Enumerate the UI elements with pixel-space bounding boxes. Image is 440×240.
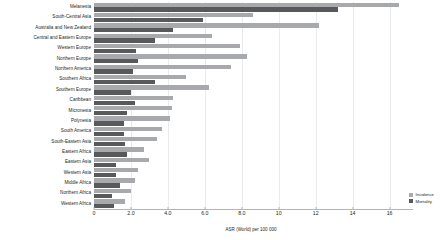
bar-row — [94, 126, 408, 136]
bar-incidence — [94, 13, 253, 17]
legend-item[interactable]: Incidence — [409, 192, 434, 197]
bar-mortality — [94, 80, 155, 84]
bar-incidence — [94, 75, 186, 79]
x-tick-label: 0 — [93, 210, 96, 216]
category-label: Central and Eastern Europe — [0, 33, 91, 43]
legend-swatch — [409, 199, 413, 203]
bar-row — [94, 23, 408, 33]
bar-mortality — [94, 59, 138, 63]
bar-incidence — [94, 158, 149, 162]
category-label: Caribbean — [0, 95, 91, 105]
bar-incidence — [94, 65, 231, 69]
bar-incidence — [94, 106, 172, 110]
category-label: Southern Europe — [0, 85, 91, 95]
x-axis-title: ASR (World) per 100 000 — [94, 227, 408, 232]
legend-swatch — [409, 193, 413, 197]
category-label: Northern Europe — [0, 54, 91, 64]
bar-row — [94, 157, 408, 167]
bar-incidence — [94, 44, 240, 48]
category-label: Australia and New Zealand — [0, 23, 91, 33]
bar-mortality — [94, 101, 135, 105]
x-tick-label: 12 — [313, 210, 319, 216]
bar-mortality — [94, 49, 136, 53]
bar-mortality — [94, 142, 125, 146]
chart-legend: IncidenceMortality — [409, 192, 434, 204]
bar-row — [94, 188, 408, 198]
x-tick-label: 2.0 — [127, 210, 134, 216]
category-label: Western Asia — [0, 168, 91, 178]
category-label: Eastern Asia — [0, 157, 91, 167]
bar-mortality — [94, 132, 124, 136]
bar-mortality — [94, 163, 116, 167]
bar-incidence — [94, 199, 125, 203]
bar-mortality — [94, 111, 127, 115]
category-label: Micronesia — [0, 106, 91, 116]
category-label: Western Europe — [0, 43, 91, 53]
bar-row — [94, 2, 408, 12]
bar-mortality — [94, 18, 203, 22]
x-tick-label: 14 — [350, 210, 356, 216]
bar-incidence — [94, 147, 144, 151]
legend-item[interactable]: Mortality — [409, 199, 434, 204]
bar-row — [94, 199, 408, 209]
bar-chart: MelanesiaSouth-Central AsiaAustralia and… — [0, 0, 440, 240]
plot-area — [94, 2, 408, 209]
bar-mortality — [94, 204, 114, 208]
bar-row — [94, 106, 408, 116]
bar-incidence — [94, 96, 173, 100]
bar-rows — [94, 2, 408, 209]
category-label: Western Africa — [0, 199, 91, 209]
bar-row — [94, 54, 408, 64]
bar-incidence — [94, 23, 319, 27]
bar-incidence — [94, 116, 170, 120]
bar-incidence — [94, 85, 209, 89]
bar-row — [94, 168, 408, 178]
x-tick-label: 6.0 — [201, 210, 208, 216]
bar-row — [94, 137, 408, 147]
x-axis-ticks: 02.04.06.08.010121416 — [94, 210, 408, 222]
bar-incidence — [94, 34, 212, 38]
bar-incidence — [94, 54, 247, 58]
bar-row — [94, 12, 408, 22]
bar-row — [94, 74, 408, 84]
bar-row — [94, 85, 408, 95]
bar-incidence — [94, 137, 157, 141]
category-label: Northern Africa — [0, 188, 91, 198]
bar-mortality — [94, 69, 133, 73]
bar-row — [94, 33, 408, 43]
bar-row — [94, 178, 408, 188]
bar-incidence — [94, 3, 399, 7]
legend-label: Mortality — [416, 199, 432, 204]
bar-incidence — [94, 178, 135, 182]
category-label: Southern Africa — [0, 74, 91, 84]
category-label: Melanesia — [0, 2, 91, 12]
bar-incidence — [94, 189, 131, 193]
legend-label: Incidence — [416, 192, 434, 197]
bar-mortality — [94, 90, 131, 94]
bar-row — [94, 147, 408, 157]
category-label: South-Central Asia — [0, 12, 91, 22]
bar-mortality — [94, 38, 155, 42]
bar-mortality — [94, 28, 173, 32]
bar-mortality — [94, 7, 338, 11]
bar-mortality — [94, 173, 116, 177]
bar-row — [94, 95, 408, 105]
bar-row — [94, 64, 408, 74]
bar-row — [94, 116, 408, 126]
category-label: Northern America — [0, 64, 91, 74]
bar-incidence — [94, 127, 162, 131]
category-label: Eastern Africa — [0, 147, 91, 157]
category-label: Middle Africa — [0, 178, 91, 188]
bar-row — [94, 43, 408, 53]
bar-mortality — [94, 152, 127, 156]
category-label: South America — [0, 126, 91, 136]
x-tick-label: 16 — [387, 210, 393, 216]
x-tick-label: 8.0 — [238, 210, 245, 216]
x-tick-label: 4.0 — [164, 210, 171, 216]
category-label: South-Eastern Asia — [0, 137, 91, 147]
bar-mortality — [94, 183, 120, 187]
x-tick-label: 10 — [276, 210, 282, 216]
bar-mortality — [94, 194, 112, 198]
bar-incidence — [94, 168, 138, 172]
bar-mortality — [94, 121, 124, 125]
